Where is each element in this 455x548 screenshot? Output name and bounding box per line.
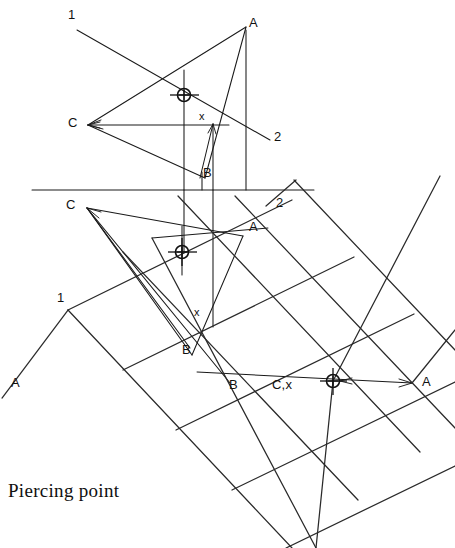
grid-line-b1 (68, 310, 292, 548)
top-triangle-edge-ca (88, 27, 246, 125)
front-triangle-edge-ab (192, 236, 243, 355)
label-top-vertex-a: A (249, 16, 258, 29)
label-top-vertex-c: C (68, 116, 78, 129)
top-triangle-edge-ab (205, 27, 246, 178)
piercing-marker-front (176, 246, 189, 259)
front-arrow-a-lower (399, 383, 412, 387)
label-front-vertex-c: C (66, 198, 76, 211)
grid-line-a1 (68, 200, 292, 310)
label-front-point-cx: C,x (272, 378, 292, 391)
label-front-vertex-a: A (249, 220, 258, 233)
label-front-corner-a: A (11, 376, 20, 389)
front-ray-left-lower (152, 238, 316, 548)
label-top-line-2: 2 (274, 130, 281, 143)
label-front-vertex-b2: B (229, 378, 238, 391)
front-edge-c-to-cx (87, 208, 190, 348)
grid-line-b3 (178, 196, 420, 452)
front-ray-right-upper (333, 176, 440, 381)
label-front-vertex-b1: B (182, 343, 191, 356)
top-view-group (77, 27, 270, 190)
piercing-marker-top (178, 89, 191, 102)
grid-line-b5 (294, 180, 455, 350)
grid-line-a5 (286, 466, 455, 548)
label-front-line-2: 2 (276, 196, 283, 209)
front-ray-far-right (412, 330, 455, 383)
top-triangle-edge-bc (88, 125, 205, 178)
figure-caption: Piercing point (8, 480, 119, 502)
figure-root: 1 A C x 2 B C 2 A 1 x A B B C,x A Pierci… (0, 0, 455, 548)
grid-line-a3 (176, 314, 414, 430)
piercing-point-drawing (0, 0, 455, 548)
front-edge-c-to-lower (87, 208, 230, 383)
label-top-vertex-b: B (203, 166, 212, 179)
label-front-line-1: 1 (57, 291, 64, 304)
grid-line-b4 (235, 196, 455, 428)
label-top-point-x: x (199, 111, 205, 122)
label-top-line-1: 1 (68, 8, 75, 21)
grid-line-a4 (232, 382, 455, 490)
piercing-marker-right (327, 375, 340, 388)
front-ray-right-lower (316, 381, 333, 548)
label-front-right-a: A (422, 375, 431, 388)
label-front-point-x: x (194, 307, 200, 318)
grid-line-a2 (123, 257, 354, 370)
